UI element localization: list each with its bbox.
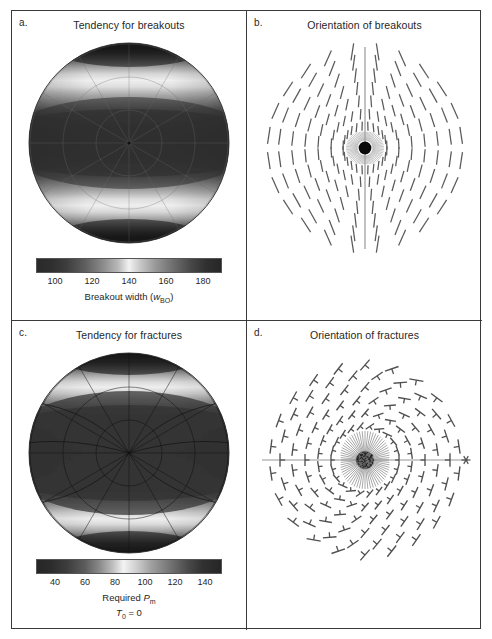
panel-c: c. Tendency for fractures xyxy=(12,321,247,631)
panel-a: a. Tendency for breakouts xyxy=(12,11,247,321)
panel-b: b. Orientation of breakouts xyxy=(247,11,482,321)
panel-c-polar-plot xyxy=(24,347,234,559)
panel-c-colorbar-label: Required Pm xyxy=(31,592,227,608)
cbar-c-tick-4: 120 xyxy=(167,577,182,587)
panel-c-colorbar: 40 60 80 100 120 140 Required Pm T0 = 0 xyxy=(31,559,227,624)
cbar-c-tick-5: 140 xyxy=(197,577,212,587)
panel-a-colorbar-label: Breakout width (wBO) xyxy=(31,291,227,307)
cbar-a-label-sub: BO xyxy=(160,297,170,304)
cbar-a-label-close: ) xyxy=(170,291,173,302)
cbar-c-tick-2: 80 xyxy=(110,577,120,587)
cbar-c-label2-rest: = 0 xyxy=(126,607,142,618)
panel-c-colorbar-strip xyxy=(36,559,222,574)
panel-d-orientation-plot xyxy=(254,345,476,571)
panel-c-title: Tendency for fractures xyxy=(12,329,246,341)
panel-d: d. Orientation of fractures xyxy=(247,321,482,631)
cbar-c-label-sub: m xyxy=(150,597,156,604)
panel-a-title: Tendency for breakouts xyxy=(12,19,246,31)
panel-c-colorbar-label-line2: T0 = 0 xyxy=(31,607,227,623)
cbar-a-tick-0: 100 xyxy=(47,276,62,286)
cbar-c-label-main: Required xyxy=(102,592,143,603)
panel-a-colorbar-strip xyxy=(36,258,222,273)
cbar-c-tick-3: 100 xyxy=(137,577,152,587)
figure-root: a. Tendency for breakouts xyxy=(0,0,492,639)
cbar-a-tick-3: 160 xyxy=(158,276,173,286)
panel-a-colorbar-ticks: 100 120 140 160 180 xyxy=(31,276,227,290)
cbar-a-tick-2: 140 xyxy=(121,276,136,286)
panel-d-title: Orientation of fractures xyxy=(247,329,482,341)
panel-a-polar-plot xyxy=(24,37,234,249)
panel-c-colorbar-ticks: 40 60 80 100 120 140 xyxy=(31,577,227,591)
panel-b-orientation-plot xyxy=(256,35,474,257)
cbar-a-tick-1: 120 xyxy=(84,276,99,286)
panel-b-title: Orientation of breakouts xyxy=(247,19,482,31)
cbar-c-tick-0: 40 xyxy=(50,577,60,587)
cbar-a-tick-4: 180 xyxy=(195,276,210,286)
cbar-c-tick-1: 60 xyxy=(80,577,90,587)
figure-frame: a. Tendency for breakouts xyxy=(11,10,481,629)
panel-a-colorbar: 100 120 140 160 180 Breakout width (wBO) xyxy=(31,258,227,307)
cbar-a-label-main: Breakout width ( xyxy=(85,291,154,302)
